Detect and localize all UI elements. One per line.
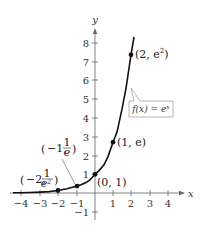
y-tick-label: 2 xyxy=(83,151,89,162)
svg-text:f(x) = ex: f(x) = ex xyxy=(131,103,170,114)
label-0-1: (0, 1) xyxy=(97,176,127,189)
y-tick-label: 7 xyxy=(83,57,89,68)
y-axis-label: y xyxy=(91,14,98,25)
y-tick-label: 1 xyxy=(83,169,89,180)
point-2-e2 xyxy=(129,52,134,57)
exponential-chart: x −4 −3 −2 −1 1 2 3 4 y xyxy=(0,0,210,230)
svg-text:(: ( xyxy=(41,143,45,156)
label-2-e2: (2, e2) xyxy=(135,47,169,61)
label-neg2-inv-e2: ( −2, 1 e2 ) xyxy=(20,167,58,190)
leader-line xyxy=(62,159,75,184)
y-axis-arrow-icon xyxy=(93,28,97,34)
exponential-curve xyxy=(13,37,134,193)
y-tick-label: 5 xyxy=(83,94,89,105)
x-tick-label: 2 xyxy=(128,198,134,209)
x-tick-label: 4 xyxy=(165,198,171,209)
function-callout: f(x) = ex xyxy=(129,88,173,117)
point-1-e xyxy=(111,140,116,145)
y-tick-label: 3 xyxy=(83,132,89,143)
y-tick-label: 6 xyxy=(83,75,89,86)
svg-text:(: ( xyxy=(20,174,24,187)
svg-text:): ) xyxy=(72,143,76,156)
x-tick-label: 3 xyxy=(147,198,153,209)
svg-text:): ) xyxy=(54,174,58,187)
x-tick-label: −2 xyxy=(51,198,66,209)
y-tick-label: −1 xyxy=(74,207,89,218)
data-points xyxy=(56,52,134,193)
y-axis: y 8 7 6 5 4 3 2 1 −1 xyxy=(74,14,98,220)
svg-text:e2: e2 xyxy=(41,177,52,190)
label-1-e: (1, e) xyxy=(117,136,146,149)
x-tick-label: −3 xyxy=(33,198,48,209)
x-tick-label: −4 xyxy=(14,198,29,209)
point-neg1-inv-e xyxy=(75,184,80,189)
x-axis: x −4 −3 −2 −1 1 2 3 4 xyxy=(10,188,194,210)
point-neg2-inv-e2 xyxy=(56,188,61,193)
y-tick-label: 4 xyxy=(83,113,89,124)
svg-text:e: e xyxy=(64,146,71,159)
x-tick-label: 1 xyxy=(110,198,116,209)
y-tick-label: 8 xyxy=(83,38,89,49)
x-axis-arrow-icon xyxy=(179,191,185,195)
x-axis-label: x xyxy=(188,188,194,199)
